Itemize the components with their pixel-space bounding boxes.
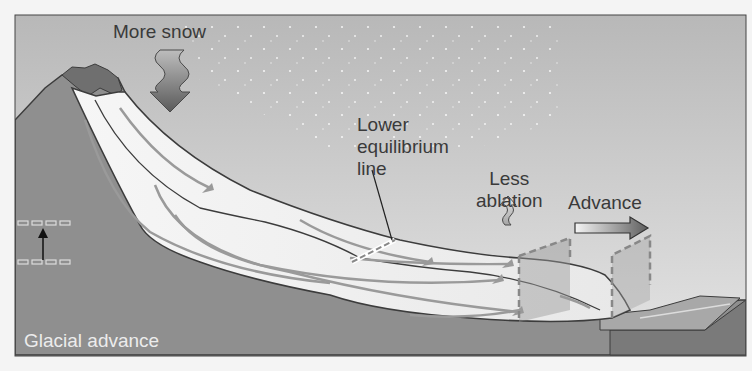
diagram-canvas xyxy=(0,0,752,371)
glacial-advance-diagram: More snow Lower equilibrium line Less ab… xyxy=(0,0,752,371)
equilibrium-line-label: Lower equilibrium line xyxy=(357,114,449,180)
diagram-caption: Glacial advance xyxy=(24,330,159,352)
advance-label: Advance xyxy=(568,192,642,214)
more-snow-label: More snow xyxy=(113,21,206,43)
less-ablation-label: Less ablation xyxy=(476,168,543,212)
